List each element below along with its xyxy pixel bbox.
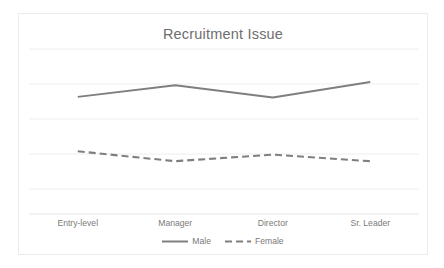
x-tick-label-sr-leader: Sr. Leader	[322, 214, 420, 232]
plot-area	[29, 36, 419, 218]
gridlines	[29, 49, 419, 214]
legend-swatch-male-icon	[162, 237, 188, 246]
chart-card: Recruitment Issue Entry-level Manager Di…	[18, 13, 428, 255]
series-line-female	[78, 151, 371, 161]
line-chart-svg	[29, 36, 419, 218]
legend-label-male: Male	[192, 236, 211, 246]
chart-legend: Male Female	[19, 233, 427, 249]
x-tick-label-entry-level: Entry-level	[29, 214, 127, 232]
series-group	[78, 82, 371, 161]
legend-entry-male[interactable]: Male	[162, 236, 211, 246]
x-tick-label-manager: Manager	[127, 214, 225, 232]
x-tick-label-director: Director	[224, 214, 322, 232]
legend-label-female: Female	[255, 236, 284, 246]
x-axis-labels: Entry-level Manager Director Sr. Leader	[29, 214, 419, 232]
legend-entry-female[interactable]: Female	[225, 236, 284, 246]
legend-swatch-female-icon	[225, 237, 251, 246]
